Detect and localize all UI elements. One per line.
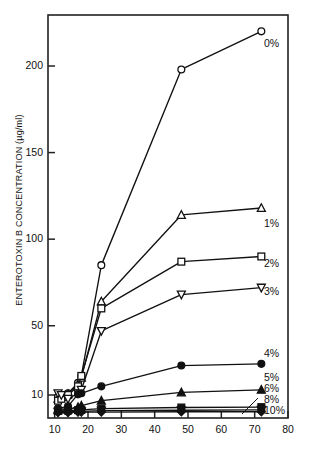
series-label-10pct: 10% bbox=[264, 404, 285, 416]
series-label-0pct: 0% bbox=[264, 37, 279, 49]
data-point-marker bbox=[98, 305, 105, 312]
series-line bbox=[58, 288, 261, 399]
data-point-marker bbox=[178, 66, 185, 73]
y-tick-label: 10 bbox=[0, 388, 43, 400]
data-point-marker bbox=[78, 390, 85, 397]
data-point-marker bbox=[258, 28, 265, 35]
series-line bbox=[58, 31, 261, 397]
data-point-marker bbox=[258, 360, 265, 367]
series-label-4pct: 4% bbox=[264, 347, 279, 359]
series-label-1pct: 1% bbox=[264, 217, 279, 229]
data-point-marker bbox=[98, 383, 105, 390]
data-point-marker bbox=[178, 362, 185, 369]
data-point-marker bbox=[97, 328, 105, 336]
data-point-marker bbox=[98, 262, 105, 269]
y-tick-label: 200 bbox=[0, 59, 43, 71]
series-line bbox=[58, 256, 261, 400]
chart-figure: ENTEROTOXIN B CONCENTRATION (µg/ml) 2001… bbox=[0, 0, 310, 454]
data-point-marker bbox=[78, 373, 85, 380]
series-3pct bbox=[54, 284, 265, 403]
y-tick-label: 50 bbox=[0, 319, 43, 331]
series-1pct bbox=[54, 204, 265, 402]
y-tick-label: 150 bbox=[0, 146, 43, 158]
series-line bbox=[58, 412, 261, 413]
x-tick-label: 80 bbox=[268, 423, 308, 435]
series-0pct bbox=[55, 28, 265, 400]
data-point-marker bbox=[178, 258, 185, 265]
y-tick-label: 100 bbox=[0, 232, 43, 244]
series-label-3pct: 3% bbox=[264, 285, 279, 297]
series-label-2pct: 2% bbox=[264, 257, 279, 269]
